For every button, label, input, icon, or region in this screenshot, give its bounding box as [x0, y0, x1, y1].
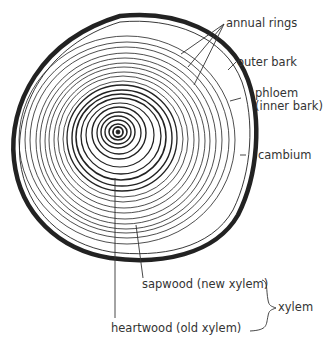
label-heartwood: heartwood (old xylem): [111, 321, 241, 335]
label-annual-rings: annual rings: [226, 16, 297, 30]
label-outer-bark: outer bark: [237, 55, 297, 69]
label-phloem-inner-bark: (inner bark): [255, 99, 323, 113]
trunk-cross-section: [13, 15, 256, 260]
label-sapwood: sapwood (new xylem): [142, 277, 268, 291]
label-phloem: phloem: [255, 86, 298, 100]
label-xylem: xylem: [278, 300, 313, 314]
tree-cross-section-diagram: annual rings outer bark phloem (inner ba…: [0, 0, 333, 340]
label-cambium: cambium: [258, 148, 312, 162]
